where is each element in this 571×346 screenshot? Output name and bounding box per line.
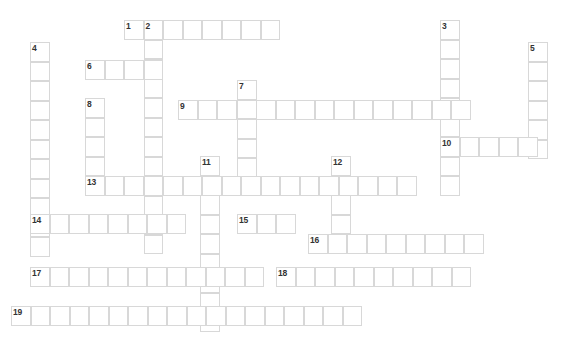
- crossword-cell[interactable]: [479, 137, 499, 157]
- crossword-cell[interactable]: [241, 20, 261, 40]
- crossword-cell[interactable]: [144, 235, 164, 255]
- crossword-cell[interactable]: [124, 20, 144, 40]
- crossword-cell[interactable]: [440, 137, 460, 157]
- crossword-cell[interactable]: [528, 42, 548, 62]
- crossword-cell[interactable]: [183, 20, 203, 40]
- crossword-cell[interactable]: [528, 62, 548, 82]
- crossword-cell[interactable]: [163, 176, 183, 196]
- crossword-cell[interactable]: [440, 176, 460, 196]
- crossword-cell[interactable]: [518, 137, 538, 157]
- crossword-cell[interactable]: [144, 176, 164, 196]
- crossword-cell[interactable]: [331, 215, 351, 235]
- crossword-cell[interactable]: [393, 267, 413, 287]
- crossword-cell[interactable]: [89, 214, 109, 234]
- crossword-cell[interactable]: [276, 267, 296, 287]
- crossword-cell[interactable]: [343, 306, 363, 326]
- crossword-cell[interactable]: [30, 179, 50, 199]
- crossword-cell[interactable]: [31, 306, 51, 326]
- crossword-cell[interactable]: [276, 214, 296, 234]
- crossword-cell[interactable]: [163, 20, 183, 40]
- crossword-cell[interactable]: [200, 195, 220, 215]
- crossword-cell[interactable]: [237, 158, 257, 178]
- crossword-cell[interactable]: [69, 267, 89, 287]
- crossword-cell[interactable]: [464, 234, 484, 254]
- crossword-cell[interactable]: [393, 100, 413, 120]
- crossword-cell[interactable]: [256, 100, 276, 120]
- crossword-cell[interactable]: [85, 118, 105, 138]
- crossword-cell[interactable]: [144, 20, 164, 40]
- crossword-cell[interactable]: [367, 234, 387, 254]
- crossword-cell[interactable]: [528, 101, 548, 121]
- crossword-cell[interactable]: [432, 267, 452, 287]
- crossword-cell[interactable]: [30, 42, 50, 62]
- crossword-cell[interactable]: [225, 267, 245, 287]
- crossword-cell[interactable]: [280, 176, 300, 196]
- crossword-cell[interactable]: [167, 267, 187, 287]
- crossword-cell[interactable]: [440, 20, 460, 40]
- crossword-cell[interactable]: [144, 118, 164, 138]
- crossword-cell[interactable]: [226, 306, 246, 326]
- crossword-cell[interactable]: [386, 234, 406, 254]
- crossword-grid[interactable]: 12345678910111213141516171819: [0, 0, 571, 346]
- crossword-cell[interactable]: [319, 176, 339, 196]
- crossword-cell[interactable]: [167, 306, 187, 326]
- crossword-cell[interactable]: [187, 306, 207, 326]
- crossword-cell[interactable]: [144, 40, 164, 60]
- crossword-cell[interactable]: [30, 214, 50, 234]
- crossword-cell[interactable]: [440, 79, 460, 99]
- crossword-cell[interactable]: [308, 234, 328, 254]
- crossword-cell[interactable]: [30, 120, 50, 140]
- crossword-cell[interactable]: [183, 176, 203, 196]
- crossword-cell[interactable]: [440, 59, 460, 79]
- crossword-cell[interactable]: [315, 267, 335, 287]
- crossword-cell[interactable]: [257, 214, 277, 234]
- crossword-cell[interactable]: [124, 176, 144, 196]
- crossword-cell[interactable]: [265, 306, 285, 326]
- crossword-cell[interactable]: [202, 20, 222, 40]
- crossword-cell[interactable]: [304, 306, 324, 326]
- crossword-cell[interactable]: [144, 157, 164, 177]
- crossword-cell[interactable]: [440, 40, 460, 60]
- crossword-cell[interactable]: [222, 20, 242, 40]
- crossword-cell[interactable]: [432, 100, 452, 120]
- crossword-cell[interactable]: [222, 176, 242, 196]
- crossword-cell[interactable]: [178, 100, 198, 120]
- crossword-cell[interactable]: [186, 267, 206, 287]
- crossword-cell[interactable]: [105, 176, 125, 196]
- crossword-cell[interactable]: [300, 176, 320, 196]
- crossword-cell[interactable]: [147, 214, 167, 234]
- crossword-cell[interactable]: [202, 176, 222, 196]
- crossword-cell[interactable]: [440, 157, 460, 177]
- crossword-cell[interactable]: [452, 267, 472, 287]
- crossword-cell[interactable]: [397, 176, 417, 196]
- crossword-cell[interactable]: [200, 156, 220, 176]
- crossword-cell[interactable]: [413, 267, 433, 287]
- crossword-cell[interactable]: [85, 98, 105, 118]
- crossword-cell[interactable]: [206, 267, 226, 287]
- crossword-cell[interactable]: [295, 100, 315, 120]
- crossword-cell[interactable]: [128, 214, 148, 234]
- crossword-cell[interactable]: [406, 234, 426, 254]
- crossword-cell[interactable]: [30, 81, 50, 101]
- crossword-cell[interactable]: [105, 60, 125, 80]
- crossword-cell[interactable]: [147, 267, 167, 287]
- crossword-cell[interactable]: [245, 267, 265, 287]
- crossword-cell[interactable]: [198, 100, 218, 120]
- crossword-cell[interactable]: [261, 176, 281, 196]
- crossword-cell[interactable]: [85, 137, 105, 157]
- crossword-cell[interactable]: [276, 100, 296, 120]
- crossword-cell[interactable]: [339, 176, 359, 196]
- crossword-cell[interactable]: [128, 306, 148, 326]
- crossword-cell[interactable]: [373, 100, 393, 120]
- crossword-cell[interactable]: [144, 60, 164, 80]
- crossword-cell[interactable]: [328, 234, 348, 254]
- crossword-cell[interactable]: [144, 196, 164, 216]
- crossword-cell[interactable]: [354, 267, 374, 287]
- crossword-cell[interactable]: [237, 100, 257, 120]
- crossword-cell[interactable]: [144, 137, 164, 157]
- crossword-cell[interactable]: [50, 267, 70, 287]
- crossword-cell[interactable]: [144, 79, 164, 99]
- crossword-cell[interactable]: [200, 215, 220, 235]
- crossword-cell[interactable]: [334, 100, 354, 120]
- crossword-cell[interactable]: [451, 100, 471, 120]
